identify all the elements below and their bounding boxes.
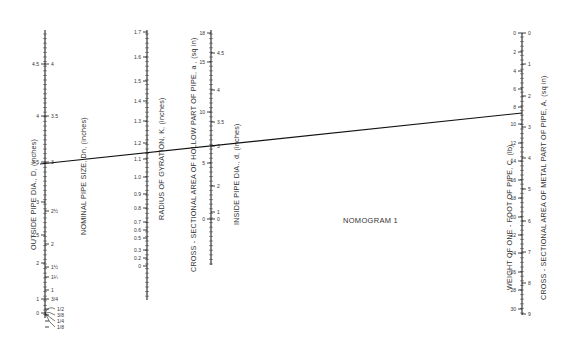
tick-label: 7 (528, 249, 531, 255)
tick-label: 0.5 (134, 235, 141, 241)
tick-label: 1.2 (134, 140, 141, 146)
tick-label: 1 (217, 209, 220, 215)
axis-titles: OUTSIDE PIPE DIA., D, (inches) NOMINAL P… (29, 37, 548, 300)
title-hollow-area: CROSS - SECTIONAL AREA OF HOLLOW PART OF… (189, 37, 198, 272)
tick-label: 5 (202, 160, 205, 166)
tick-label: 3 (217, 143, 220, 149)
nomogram-canvas: 0122.533.544.51/81/43/81/23/411¼1½22½33.… (0, 0, 578, 349)
tick-label: 0 (217, 216, 220, 222)
title-nominal-size: NOMINAL PIPE SIZE, Dn, (inches) (79, 117, 88, 235)
tick-label: 2 (51, 241, 54, 247)
nomogram-title: NOMOGRAM 1 (343, 216, 398, 225)
tick-label: 15 (199, 59, 205, 65)
tick-label: 6 (513, 86, 516, 92)
tick-label: 3/4 (51, 296, 58, 302)
axes-group: 0122.533.544.51/81/43/81/23/411¼1½22½33.… (32, 29, 531, 330)
tick-label: 2 (513, 49, 516, 55)
tick-label: 0.9 (134, 191, 141, 197)
title-radius-gyration: RADIUS OF GYRATION, K, (inches) (157, 97, 166, 220)
tick-label: 9 (528, 311, 531, 317)
tick-label: 10 (510, 121, 516, 127)
title-outside-dia: OUTSIDE PIPE DIA., D, (inches) (29, 139, 38, 250)
tick-label: 4 (528, 155, 531, 161)
tick-label: 1 (51, 287, 54, 293)
tick-label: 1¼ (51, 274, 59, 280)
tick-label: 3.5 (217, 119, 224, 125)
tick-label: 1/2 (57, 306, 64, 312)
nomogram-svg: 0122.533.544.51/81/43/81/23/411¼1½22½33.… (0, 0, 578, 349)
title-metal-area: CROSS - SECTIONAL AREA OF METAL PART OF … (539, 75, 548, 300)
tick-label: 1.4 (134, 98, 141, 104)
tick-label: 0.2 (134, 255, 141, 261)
tick-label: 0.7 (134, 219, 141, 225)
tick-label: 3/8 (57, 312, 64, 318)
tick-label: 1½ (51, 264, 59, 270)
tick-label: 8 (513, 104, 516, 110)
tick-label: 3 (51, 159, 54, 165)
tick-label: 3.5 (51, 113, 58, 119)
tick-label: 2 (36, 260, 39, 266)
tick-label: 0 (528, 30, 531, 36)
tick-label: 2½ (51, 208, 59, 214)
tick-label: 1.6 (134, 54, 141, 60)
tick-label: 0.3 (134, 247, 141, 253)
tick-label: 6 (528, 218, 531, 224)
tick-label: 1 (528, 61, 531, 67)
tick-label: 2 (528, 93, 531, 99)
tick-label: 3 (528, 124, 531, 130)
tick-label: 8 (528, 280, 531, 286)
tick-label: 2 (217, 183, 220, 189)
tick-label: 1/8 (57, 324, 64, 330)
tick-label: 1.0 (134, 174, 141, 180)
title-weight-per-foot: WEIGHT OF ONE - FOOT OF PIPE, C, (lb) (505, 144, 514, 290)
tick-label: 4 (36, 113, 39, 119)
tick-label: 1.5 (134, 78, 141, 84)
tick-label: 1.1 (134, 156, 141, 162)
tick-label: 1.7 (134, 29, 141, 35)
tick-label: 1.3 (134, 118, 141, 124)
tick-label: 5 (528, 186, 531, 192)
tick-label: 4.5 (217, 50, 224, 56)
tick-label: 1/4 (57, 318, 64, 324)
tick-label: 0 (513, 30, 516, 36)
tick-label: 0.8 (134, 205, 141, 211)
tick-label: 30 (510, 306, 516, 312)
tick-label: 4 (51, 61, 54, 67)
tick-label: 4.5 (32, 61, 39, 67)
isopleth-line (40, 113, 522, 164)
tick-label: 4 (513, 68, 516, 74)
tick-label: 10 (199, 109, 205, 115)
tick-label: 0 (138, 263, 141, 269)
tick-label: 4 (217, 87, 220, 93)
tick-label: 0.6 (134, 227, 141, 233)
title-inside-dia: INSIDE PIPE DIA., d, (inches) (232, 123, 241, 225)
tick-label: 0 (202, 216, 205, 222)
tick-label: 1 (36, 296, 39, 302)
tick-label: 18 (199, 30, 205, 36)
tick-label: 0 (36, 310, 39, 316)
